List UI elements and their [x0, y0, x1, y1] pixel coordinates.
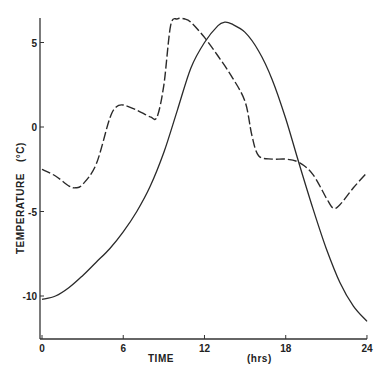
y-axis-title: TEMPERATURE: [15, 173, 26, 254]
y-tick-label: 5: [31, 38, 37, 49]
x-axis-unit: (hrs): [247, 353, 272, 364]
temperature-chart: 50-5-1006121824 TIME (hrs) TEMPERATURE (…: [0, 0, 387, 376]
x-tick-label: 24: [361, 343, 373, 354]
x-tick-label: 18: [280, 343, 292, 354]
x-tick-label: 12: [199, 343, 211, 354]
series-dashed-line: [42, 18, 367, 208]
series-solid-line: [42, 22, 367, 321]
x-tick-label: 0: [39, 343, 45, 354]
series-group: [42, 18, 367, 321]
x-tick-label: 6: [120, 343, 126, 354]
y-tick-label: -10: [23, 291, 38, 302]
x-axis-title: TIME: [148, 353, 174, 364]
y-tick-label: 0: [31, 122, 37, 133]
y-tick-label: -5: [28, 207, 37, 218]
y-axis-unit: (°C): [15, 142, 26, 162]
